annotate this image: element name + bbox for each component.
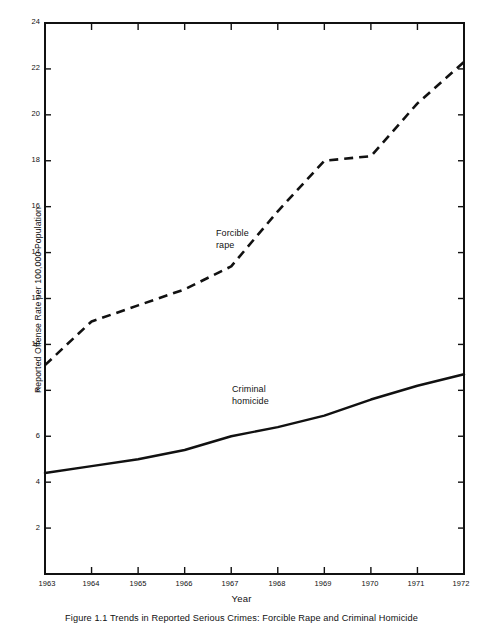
- x-tick-label: 1964: [71, 579, 111, 588]
- series-label-forcible-rape: Forcible rape: [216, 228, 249, 251]
- y-tick-label: 20: [18, 110, 40, 118]
- x-axis-title: Year: [0, 593, 483, 604]
- series-label-line1: Forcible: [216, 228, 249, 240]
- x-tick-label: 1965: [118, 579, 158, 588]
- series-label-line1: Criminal: [232, 384, 269, 396]
- y-tick-label: 4: [18, 478, 40, 486]
- y-axis-title: Reported Offense Rate per 100,000 Popula…: [33, 170, 43, 430]
- y-tick-label: 22: [18, 64, 40, 72]
- y-tick-label: 18: [18, 156, 40, 164]
- x-tick-label: 1969: [303, 579, 343, 588]
- y-tick-label: 24: [18, 18, 40, 26]
- x-tick-label: 1967: [210, 579, 250, 588]
- series-label-line2: rape: [216, 240, 249, 252]
- x-tick-label: 1970: [350, 579, 390, 588]
- x-tick-label: 1966: [164, 579, 204, 588]
- x-tick-label: 1968: [257, 579, 297, 588]
- figure-caption: Figure 1.1 Trends in Reported Serious Cr…: [0, 612, 483, 624]
- plot-area: [44, 22, 465, 575]
- x-tick-label: 1971: [396, 579, 436, 588]
- y-tick-label: 6: [18, 432, 40, 440]
- series-label-line2: homicide: [232, 396, 269, 408]
- x-tick-label: 1963: [27, 579, 67, 588]
- x-tick-label: 1972: [441, 579, 481, 588]
- y-tick-label: 2: [18, 524, 40, 532]
- figure-container: 24 22 20 18 16 14 12 10 8 6 4 2 Reported…: [0, 0, 483, 626]
- series-label-criminal-homicide: Criminal homicide: [232, 384, 269, 407]
